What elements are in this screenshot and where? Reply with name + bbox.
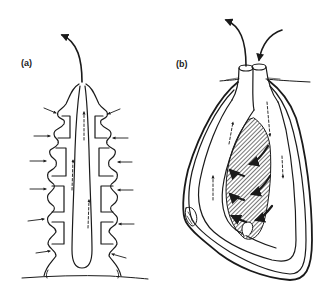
body-outer-right bbox=[86, 84, 121, 276]
inhalant-arrow-b bbox=[259, 30, 282, 60]
panel-a-drawing bbox=[22, 35, 148, 279]
substrate-line-a bbox=[22, 276, 148, 279]
exhalant-arrow-a bbox=[62, 35, 82, 82]
inner-lumen bbox=[72, 86, 92, 268]
gill-hatched bbox=[226, 118, 271, 239]
panel-b-drawing bbox=[183, 20, 312, 280]
diagram-canvas bbox=[0, 0, 331, 293]
substrate-line-b bbox=[220, 79, 310, 82]
inflow-arrows-left bbox=[28, 108, 56, 253]
exhalant-arrow-b bbox=[226, 20, 246, 66]
figure: (a) (b) bbox=[0, 0, 331, 293]
